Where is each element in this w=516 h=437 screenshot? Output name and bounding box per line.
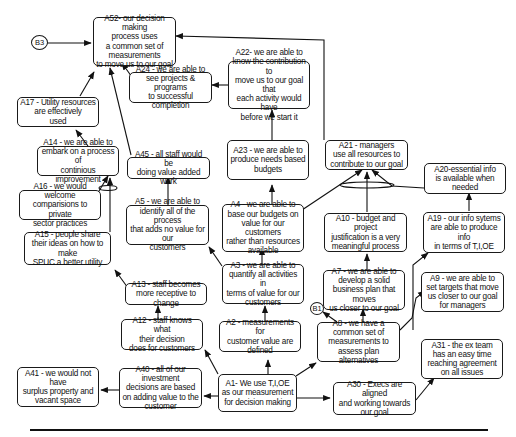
node-a13: A13 - staff becomes more receptive to ch… [125, 283, 207, 305]
node-a1: A1- We use T,I,OE as our measurement for… [218, 374, 297, 412]
node-a19: A19 - our info sytems are able to produc… [423, 212, 505, 253]
node-a7: A7 - we are able to develop a solid busi… [323, 270, 405, 310]
node-a12: A12 - staff knows what their decision do… [121, 319, 203, 350]
node-a2: A2 - measurements for customer value are… [219, 321, 301, 352]
node-a4: A4 - we are able to base our budgets on … [222, 204, 304, 252]
node-a17: A17 - Utility resources are effectively … [17, 97, 99, 127]
node-a40: A40 - all of our investment decisions ar… [119, 368, 202, 408]
node-a5: A5 - we are able to identify all of the … [126, 205, 209, 245]
node-a10: A10 - budget and project justification i… [324, 213, 407, 252]
node-a52: A52- our decision making process uses a … [93, 17, 176, 66]
node-a14: A14 - we are able to embark on a process… [37, 146, 119, 176]
node-a45: A45 - all staff would be doing value add… [127, 157, 210, 179]
connector-b3: B3 [31, 35, 48, 50]
node-a31: A31 - the ex team has an easy time reach… [421, 339, 503, 379]
connector-b1: B1 [310, 302, 324, 315]
node-a23: A23 - we are able to produce needs based… [227, 140, 309, 180]
node-a20: A20-essential info is available when nee… [424, 163, 506, 194]
node-a9: A9 - we are able to set targets that mov… [421, 272, 504, 312]
node-a8: A8 - we have a common set of measurement… [317, 322, 400, 362]
node-a15: A15 - people share their ideas on how to… [24, 232, 111, 265]
bottom-divider [30, 429, 488, 431]
node-a22: A22- we are able to know the contributio… [228, 61, 310, 109]
node-a21: A21 - managers use all resources to cont… [325, 140, 408, 170]
node-a41: A41 - we would not have surplus property… [17, 367, 99, 407]
node-a24: A24 - we are able to see projects & prog… [129, 72, 212, 103]
node-a30: A30 - Execs are aligned and working towa… [333, 382, 416, 415]
diagram-canvas: B3 B1 A52- our decision making process u… [0, 0, 516, 437]
node-a16: A16 - we would welcome comparisions to p… [19, 190, 101, 220]
node-a3: A3 - we are able to quantify all activit… [222, 264, 304, 304]
